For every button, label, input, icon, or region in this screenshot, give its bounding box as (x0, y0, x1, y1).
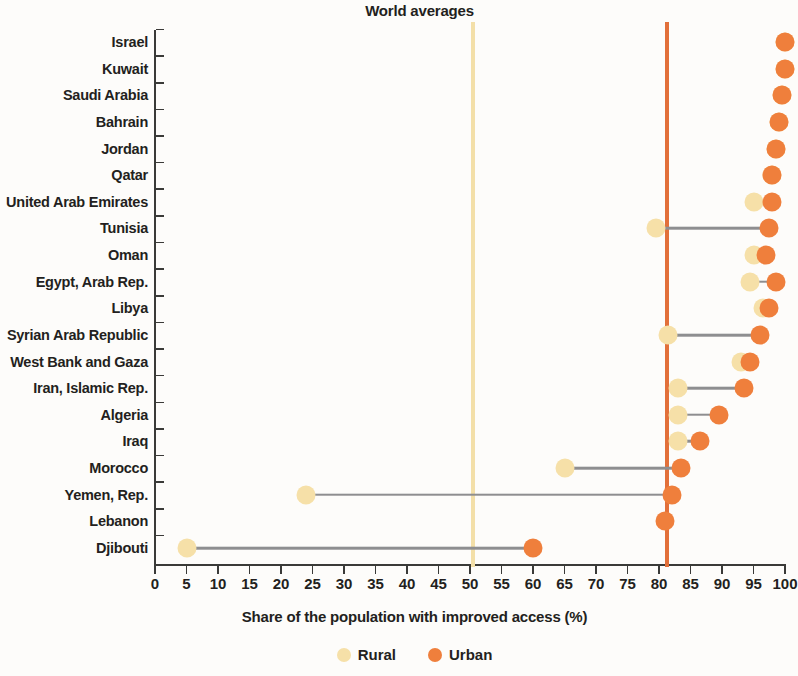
x-axis-tick (532, 566, 534, 574)
urban-data-point[interactable] (760, 299, 779, 318)
x-axis-tick (753, 566, 755, 574)
y-axis-tick (156, 55, 164, 57)
urban-data-point[interactable] (741, 352, 760, 371)
rural-data-point[interactable] (177, 539, 196, 558)
chart-row: Egypt, Arab Rep. (0, 282, 797, 283)
x-axis-tick-label: 80 (651, 575, 668, 592)
rural-world-average-line (471, 22, 474, 567)
y-axis-category-label: Yemen, Rep. (65, 487, 148, 503)
urban-data-point[interactable] (769, 112, 788, 131)
x-axis-tick (595, 566, 597, 574)
y-axis-category-label: Bahrain (96, 114, 148, 130)
y-axis-tick (156, 162, 164, 164)
urban-data-point[interactable] (760, 219, 779, 238)
urban-data-point[interactable] (776, 59, 795, 78)
y-axis-tick (156, 508, 164, 510)
chart-row: Iran, Islamic Rep. (0, 388, 797, 389)
urban-data-point[interactable] (763, 166, 782, 185)
y-axis-tick (156, 455, 164, 457)
y-axis-category-label: Saudi Arabia (63, 87, 148, 103)
urban-data-point[interactable] (766, 272, 785, 291)
x-axis-tick (186, 566, 188, 574)
chart-legend: RuralUrban (0, 646, 797, 663)
chart-row: Lebanon (0, 521, 797, 522)
urban-data-point[interactable] (766, 139, 785, 158)
rural-data-point[interactable] (744, 192, 763, 211)
y-axis-tick (156, 109, 164, 111)
chart-row: Kuwait (0, 69, 797, 70)
y-axis-category-label: Egypt, Arab Rep. (36, 274, 148, 290)
y-axis-tick (156, 188, 164, 190)
x-axis-tick-label: 60 (525, 575, 542, 592)
y-axis-tick (156, 295, 164, 297)
rural-data-point[interactable] (668, 379, 687, 398)
x-axis-tick-label: 10 (210, 575, 227, 592)
urban-data-point[interactable] (776, 33, 795, 52)
rural-data-point[interactable] (741, 272, 760, 291)
chart-row: Israel (0, 42, 797, 43)
x-axis-tick-label: 20 (273, 575, 290, 592)
legend-item[interactable]: Urban (428, 646, 492, 663)
y-axis-tick (156, 375, 164, 377)
y-axis-tick (156, 348, 164, 350)
legend-swatch-icon (337, 648, 351, 662)
x-axis-tick-label: 25 (304, 575, 321, 592)
x-axis-tick (249, 566, 251, 574)
urban-data-point[interactable] (690, 432, 709, 451)
rural-data-point[interactable] (668, 405, 687, 424)
x-axis-tick-label: 40 (399, 575, 416, 592)
urban-data-point[interactable] (662, 485, 681, 504)
urban-data-point[interactable] (772, 86, 791, 105)
y-axis-category-label: Jordan (101, 141, 148, 157)
rural-data-point[interactable] (646, 219, 665, 238)
x-axis-tick (658, 566, 660, 574)
legend-label: Urban (449, 646, 492, 663)
legend-label: Rural (358, 646, 396, 663)
urban-data-point[interactable] (709, 405, 728, 424)
urban-data-point[interactable] (735, 379, 754, 398)
y-axis-tick (156, 428, 164, 430)
x-axis-tick (501, 566, 503, 574)
urban-data-point[interactable] (656, 512, 675, 531)
urban-data-point[interactable] (672, 459, 691, 478)
chart-row: Algeria (0, 415, 797, 416)
rural-data-point[interactable] (297, 485, 316, 504)
y-axis-category-label: Oman (108, 247, 148, 263)
x-axis-tick (154, 566, 156, 574)
x-axis-tick (312, 566, 314, 574)
x-axis-tick (721, 566, 723, 574)
chart-row: Oman (0, 255, 797, 256)
y-axis-line (154, 30, 156, 566)
rural-urban-connector (668, 334, 759, 337)
chart-row: Yemen, Rep. (0, 495, 797, 496)
legend-item[interactable]: Rural (337, 646, 396, 663)
y-axis-category-label: Tunisia (100, 220, 148, 236)
x-axis-tick-label: 100 (772, 575, 797, 592)
chart-row: Tunisia (0, 228, 797, 229)
y-axis-tick (156, 29, 164, 31)
x-axis-tick-label: 30 (336, 575, 353, 592)
x-axis-label: Share of the population with improved ac… (0, 608, 797, 625)
y-axis-tick (156, 268, 164, 270)
y-axis-tick (156, 242, 164, 244)
x-axis-tick (375, 566, 377, 574)
y-axis-category-label: Kuwait (102, 61, 148, 77)
x-axis-tick-label: 70 (588, 575, 605, 592)
urban-data-point[interactable] (757, 246, 776, 265)
x-axis-tick (217, 566, 219, 574)
rural-data-point[interactable] (668, 432, 687, 451)
rural-data-point[interactable] (555, 459, 574, 478)
y-axis-category-label: Syrian Arab Republic (7, 327, 148, 343)
x-axis-tick (438, 566, 440, 574)
x-axis-tick-label: 75 (619, 575, 636, 592)
y-axis-tick (156, 82, 164, 84)
urban-data-point[interactable] (763, 192, 782, 211)
rural-data-point[interactable] (659, 325, 678, 344)
chart-row: Syrian Arab Republic (0, 335, 797, 336)
chart-row: Morocco (0, 468, 797, 469)
urban-data-point[interactable] (750, 325, 769, 344)
x-axis-tick-label: 95 (745, 575, 762, 592)
x-axis-tick (406, 566, 408, 574)
urban-data-point[interactable] (524, 539, 543, 558)
y-axis-tick (156, 402, 164, 404)
